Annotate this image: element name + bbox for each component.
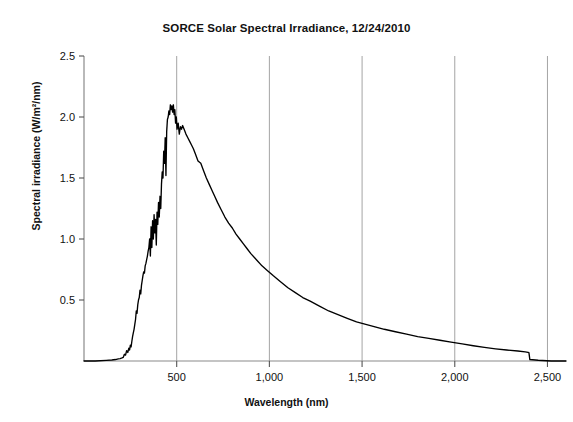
plot-area: 0.51.01.52.02.5 5001,0001,5002,0002,500 <box>0 0 573 422</box>
x-tick-label: 500 <box>168 371 186 383</box>
x-tick-label: 2,000 <box>441 371 469 383</box>
x-tick-label: 2,500 <box>534 371 562 383</box>
y-tick-label: 1.5 <box>60 172 75 184</box>
y-tick-group: 0.51.01.52.02.5 <box>60 50 84 306</box>
axes-group <box>84 56 566 361</box>
chart-figure: SORCE Solar Spectral Irradiance, 12/24/2… <box>0 0 573 422</box>
y-tick-label: 2.5 <box>60 50 75 62</box>
x-tick-label: 1,500 <box>348 371 376 383</box>
data-series-group <box>84 105 566 361</box>
x-tick-group: 5001,0001,5002,0002,500 <box>168 361 562 383</box>
data-line-sorce-solar-spectral-irradiance <box>84 105 566 361</box>
y-tick-label: 0.5 <box>60 294 75 306</box>
y-tick-label: 2.0 <box>60 111 75 123</box>
gridlines-group <box>177 56 548 361</box>
x-tick-label: 1,000 <box>256 371 284 383</box>
y-tick-label: 1.0 <box>60 233 75 245</box>
